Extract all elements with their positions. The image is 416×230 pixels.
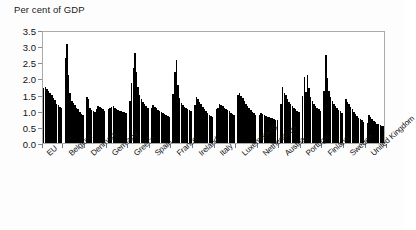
bar xyxy=(190,111,191,143)
bar xyxy=(320,111,321,143)
y-tick-mark xyxy=(38,63,42,64)
bar-group xyxy=(151,32,170,143)
bar-group xyxy=(108,32,127,143)
x-tick-mark xyxy=(106,144,107,148)
bar xyxy=(212,117,213,143)
bar xyxy=(255,115,256,143)
y-tick-label: 1.5 xyxy=(6,90,36,101)
bar-group xyxy=(65,32,84,143)
bar-group xyxy=(345,32,364,143)
bar xyxy=(61,108,62,144)
x-tick-mark xyxy=(127,144,128,148)
x-tick-mark xyxy=(42,144,43,148)
y-tick-mark xyxy=(38,96,42,97)
bar xyxy=(277,120,278,143)
bar-group xyxy=(43,32,62,143)
y-tick-mark xyxy=(38,31,42,32)
bar xyxy=(384,127,385,143)
y-tick-mark xyxy=(38,79,42,80)
x-tick-mark xyxy=(300,144,301,148)
bar xyxy=(363,122,364,143)
bar-group xyxy=(216,32,235,143)
x-tick-mark xyxy=(192,144,193,148)
bar xyxy=(125,113,126,143)
chart-title: Per cent of GDP xyxy=(14,4,85,15)
x-axis-ticks xyxy=(42,144,385,150)
x-tick-mark xyxy=(386,144,387,148)
y-tick-label: 1.0 xyxy=(6,106,36,117)
bar xyxy=(169,117,170,143)
bar-group xyxy=(194,32,213,143)
bar xyxy=(147,108,148,144)
bar-group xyxy=(302,32,321,143)
x-tick-mark xyxy=(235,144,236,148)
bar-group xyxy=(259,32,278,143)
x-tick-mark xyxy=(214,144,215,148)
y-tick-label: 0.0 xyxy=(6,139,36,150)
y-tick-label: 2.5 xyxy=(6,58,36,69)
x-tick-mark xyxy=(62,144,63,148)
bars-container xyxy=(43,32,384,143)
bar-group xyxy=(367,32,385,143)
x-tick-mark xyxy=(321,144,322,148)
bar-group xyxy=(86,32,105,143)
plot-area xyxy=(42,31,385,144)
x-tick-mark xyxy=(170,144,171,148)
bar-group xyxy=(129,32,148,143)
x-tick-mark xyxy=(257,144,258,148)
y-tick-label: 3.5 xyxy=(6,26,36,37)
bar-group xyxy=(172,32,191,143)
y-tick-label: 0.5 xyxy=(6,122,36,133)
bar xyxy=(341,113,342,143)
bar-group xyxy=(237,32,256,143)
bar xyxy=(82,115,83,143)
x-tick-mark xyxy=(278,144,279,148)
x-tick-mark xyxy=(365,144,366,148)
y-tick-mark xyxy=(38,47,42,48)
bar xyxy=(104,111,105,143)
bar xyxy=(298,112,299,143)
y-tick-mark xyxy=(38,112,42,113)
x-tick-mark xyxy=(149,144,150,148)
y-tick-mark xyxy=(38,128,42,129)
y-tick-label: 2.0 xyxy=(6,74,36,85)
y-tick-mark xyxy=(38,144,42,145)
x-tick-mark xyxy=(343,144,344,148)
bar-group xyxy=(323,32,342,143)
bar xyxy=(233,115,234,143)
x-tick-mark xyxy=(84,144,85,148)
bar-group xyxy=(280,32,299,143)
y-tick-label: 3.0 xyxy=(6,42,36,53)
